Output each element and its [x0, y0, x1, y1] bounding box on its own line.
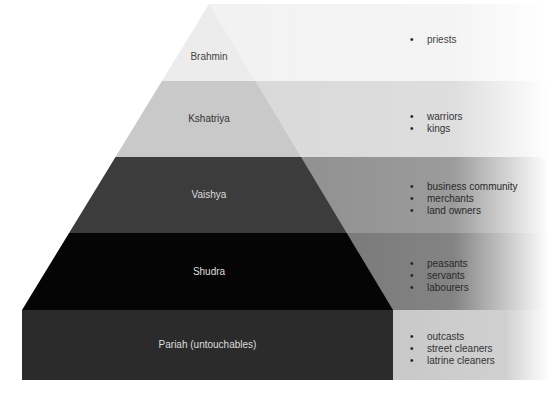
tier-label-pariah: Pariah (untouchables) — [108, 339, 308, 350]
list-item: outcasts — [410, 331, 495, 343]
description-list-vaishya: business community merchants land owners — [410, 181, 518, 217]
tier-label-kshatriya: Kshatriya — [109, 113, 309, 124]
list-item: kings — [410, 123, 463, 135]
description-list-shudra: peasants servants labourers — [410, 258, 469, 294]
list-item: peasants — [410, 258, 469, 270]
list-item: labourers — [410, 282, 469, 294]
tier-label-brahmin: Brahmin — [109, 51, 309, 62]
tier-label-vaishya: Vaishya — [109, 189, 309, 200]
description-list-pariah: outcasts street cleaners latrine cleaner… — [410, 331, 495, 367]
list-item: merchants — [410, 193, 518, 205]
list-item: priests — [410, 34, 456, 46]
list-item: warriors — [410, 111, 463, 123]
list-item: land owners — [410, 205, 518, 217]
description-list-brahmin: priests — [410, 34, 456, 46]
band-brahmin — [209, 4, 549, 81]
description-list-kshatriya: warriors kings — [410, 111, 463, 135]
list-item: latrine cleaners — [410, 355, 495, 367]
tier-label-shudra: Shudra — [109, 266, 309, 277]
list-item: business community — [410, 181, 518, 193]
list-item: street cleaners — [410, 343, 495, 355]
list-item: servants — [410, 270, 469, 282]
